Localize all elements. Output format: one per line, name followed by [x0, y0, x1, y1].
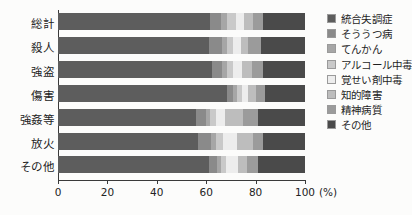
x-tick-mark — [58, 180, 59, 184]
bar-segment — [243, 109, 258, 126]
bar-segment — [209, 37, 223, 54]
bar-segment — [58, 61, 212, 78]
bar-segment — [265, 85, 305, 102]
bar-segment — [58, 37, 209, 54]
x-tick-label: 100 — [295, 186, 315, 198]
bar-segment — [256, 85, 266, 102]
bar-row — [58, 37, 305, 54]
chart-legend: 統合失調症そううつ病てんかんアルコール中毒覚せい剤中毒知的障害精神病質その他 — [327, 11, 411, 133]
legend-swatch — [327, 29, 336, 38]
bar-segment — [242, 61, 252, 78]
legend-item: アルコール中毒 — [327, 57, 411, 72]
category-label: 傷害 — [2, 87, 54, 103]
bar-segment — [248, 37, 260, 54]
bar-segment — [209, 156, 218, 173]
bar-segment — [58, 85, 227, 102]
bar-segment — [263, 61, 305, 78]
bar-segment — [261, 37, 305, 54]
bar-segment — [216, 133, 223, 150]
bar-segment — [263, 13, 305, 30]
category-label: 総計 — [2, 15, 54, 31]
bar-segment — [253, 133, 263, 150]
legend-label: アルコール中毒 — [341, 57, 412, 72]
x-tick-mark — [206, 180, 207, 184]
legend-label: その他 — [341, 117, 372, 132]
legend-swatch — [327, 14, 336, 23]
legend-swatch — [327, 90, 336, 99]
bar-segment — [236, 13, 245, 30]
bar-row — [58, 13, 305, 30]
x-tick-label: 0 — [55, 186, 62, 198]
category-label: 放火 — [2, 135, 54, 151]
legend-label: 覚せい剤中毒 — [341, 72, 402, 87]
x-axis-line — [58, 180, 306, 181]
category-label: 強盗 — [2, 63, 54, 79]
bar-segment — [233, 37, 240, 54]
legend-item: その他 — [327, 117, 411, 132]
bar-segment — [227, 13, 236, 30]
bar-segment — [225, 109, 244, 126]
legend-swatch — [327, 105, 336, 114]
bar-row — [58, 61, 305, 78]
legend-swatch — [327, 44, 336, 53]
category-label: 強姦等 — [2, 111, 54, 127]
legend-label: 精神病質 — [341, 102, 382, 117]
category-label: その他 — [2, 158, 54, 174]
legend-item: 精神病質 — [327, 102, 411, 117]
x-tick-mark — [107, 180, 108, 184]
bar-segment — [258, 109, 305, 126]
legend-item: 知的障害 — [327, 87, 411, 102]
bar-row — [58, 133, 305, 150]
x-tick-label: 20 — [101, 186, 114, 198]
legend-swatch — [327, 75, 336, 84]
x-axis-unit-label: (%) — [319, 186, 337, 198]
x-tick-mark — [157, 180, 158, 184]
legend-item: てんかん — [327, 41, 411, 56]
bar-segment — [212, 61, 222, 78]
chart-container: 総計殺人強盗傷害強姦等放火その他 020406080100(%) 統合失調症そう… — [0, 0, 412, 215]
bar-row — [58, 109, 305, 126]
legend-label: てんかん — [341, 41, 382, 56]
bar-segment — [237, 133, 253, 150]
bar-segment — [241, 37, 248, 54]
legend-swatch — [327, 120, 336, 129]
bar-segment — [226, 156, 238, 173]
bar-segment — [258, 156, 305, 173]
bar-segment — [238, 156, 247, 173]
bar-segment — [248, 85, 255, 102]
bar-segment — [58, 133, 198, 150]
bar-segment — [58, 13, 210, 30]
x-tick-label: 60 — [200, 186, 213, 198]
x-tick-label: 80 — [249, 186, 262, 198]
x-tick-mark — [305, 180, 306, 184]
bar-segment — [252, 61, 263, 78]
bar-segment — [58, 109, 196, 126]
x-tick-label: 40 — [150, 186, 163, 198]
bar-segment — [216, 109, 225, 126]
bar-segment — [233, 61, 242, 78]
category-label: 殺人 — [2, 39, 54, 55]
legend-label: 知的障害 — [341, 87, 382, 102]
legend-item: そううつ病 — [327, 26, 411, 41]
bar-segment — [58, 156, 209, 173]
legend-label: そううつ病 — [341, 26, 392, 41]
bar-segment — [253, 13, 263, 30]
bar-segment — [247, 156, 258, 173]
bar-row — [58, 85, 305, 102]
legend-item: 統合失調症 — [327, 11, 411, 26]
legend-item: 覚せい剤中毒 — [327, 72, 411, 87]
bar-segment — [263, 133, 305, 150]
bar-segment — [244, 13, 253, 30]
x-tick-mark — [256, 180, 257, 184]
bar-row — [58, 156, 305, 173]
legend-swatch — [327, 60, 336, 69]
bar-segment — [210, 13, 221, 30]
bar-segment — [198, 133, 212, 150]
bar-segment — [223, 133, 237, 150]
bar-segment — [196, 109, 206, 126]
legend-label: 統合失調症 — [341, 11, 392, 26]
